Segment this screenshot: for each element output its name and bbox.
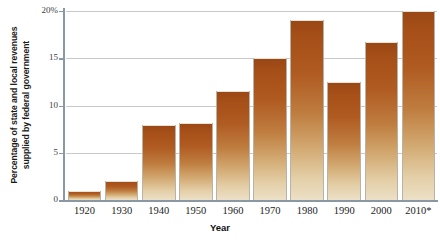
bar-1930 xyxy=(105,181,139,200)
y-tick-label-10: 10 xyxy=(30,106,58,118)
y-axis-title-line1: Percentage of state and local revenues xyxy=(8,26,20,183)
y-tick-text-15: 15 xyxy=(32,52,58,62)
x-tick-label-1930: 1930 xyxy=(103,205,140,216)
plot-area xyxy=(66,11,437,200)
x-axis-title: Year xyxy=(0,222,440,233)
bar-1990 xyxy=(327,82,361,200)
bar-1940 xyxy=(142,125,176,200)
bar-1920 xyxy=(68,191,102,200)
x-tick-label-2010: 2010* xyxy=(400,205,437,216)
x-tick-label-1980: 1980 xyxy=(289,205,326,216)
bar-2000 xyxy=(365,42,399,200)
bar-1970 xyxy=(253,58,287,200)
bar-2010 xyxy=(402,11,436,200)
x-axis-line xyxy=(59,200,438,202)
bar-1960 xyxy=(216,91,250,200)
x-tick-label-1940: 1940 xyxy=(140,205,177,216)
bar-chart: Percentage of state and local revenues s… xyxy=(0,0,440,241)
x-tick-label-1990: 1990 xyxy=(326,205,363,216)
bar-1950 xyxy=(179,123,213,200)
y-tick-label-15: 15 xyxy=(30,58,58,70)
x-tick-label-2000: 2000 xyxy=(363,205,400,216)
y-tick-text-10: 10 xyxy=(32,100,58,110)
y-axis-line xyxy=(63,8,65,202)
x-tick-label-1960: 1960 xyxy=(214,205,251,216)
y-tick-label-5: 5 xyxy=(30,153,58,165)
x-tick-label-1920: 1920 xyxy=(66,205,103,216)
x-tick-label-1950: 1950 xyxy=(177,205,214,216)
y-tick-label-20: 20% xyxy=(30,11,58,23)
y-tick-label-0: 0 xyxy=(30,200,58,212)
y-tick-text-20: 20% xyxy=(32,5,58,15)
gridline-20 xyxy=(66,11,437,12)
bar-1980 xyxy=(290,20,324,200)
y-tick-text-0: 0 xyxy=(32,194,58,204)
y-tick-text-5: 5 xyxy=(32,147,58,157)
x-tick-label-1970: 1970 xyxy=(252,205,289,216)
